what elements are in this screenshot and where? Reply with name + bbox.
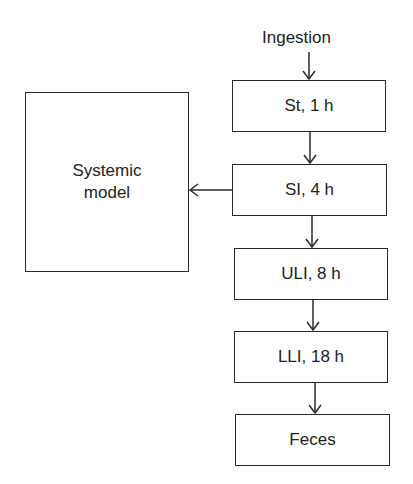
small-intestine-box: SI, 4 h <box>232 164 387 216</box>
lower-large-intestine-label: LLI, 18 h <box>278 347 344 367</box>
upper-large-intestine-box: ULI, 8 h <box>234 248 388 300</box>
systemic-model-box: Systemic model <box>25 92 189 272</box>
systemic-model-label-line2: model <box>84 182 130 204</box>
ingestion-label: Ingestion <box>262 28 331 48</box>
small-intestine-label: SI, 4 h <box>285 180 334 200</box>
stomach-label: St, 1 h <box>284 96 333 116</box>
feces-label: Feces <box>289 430 335 450</box>
lower-large-intestine-box: LLI, 18 h <box>234 331 388 383</box>
systemic-model-label-line1: Systemic <box>73 160 142 182</box>
feces-box: Feces <box>235 414 390 466</box>
upper-large-intestine-label: ULI, 8 h <box>281 264 341 284</box>
stomach-box: St, 1 h <box>232 80 386 132</box>
